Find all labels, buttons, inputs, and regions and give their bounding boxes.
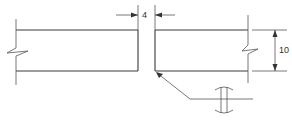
- gap-dimension-label: 4: [142, 10, 147, 20]
- leader-arrow: [156, 72, 253, 99]
- left-break-line: [7, 19, 28, 85]
- right-plate: [155, 15, 258, 83]
- gap-dimension: 4: [116, 5, 175, 30]
- thickness-dimension: 10: [252, 30, 289, 71]
- thickness-dimension-label: 10: [279, 45, 289, 55]
- weld-symbol-icon: [215, 87, 233, 113]
- left-plate: [7, 19, 138, 85]
- right-break-line: [242, 15, 258, 83]
- weld-drawing: 4 10: [0, 0, 292, 122]
